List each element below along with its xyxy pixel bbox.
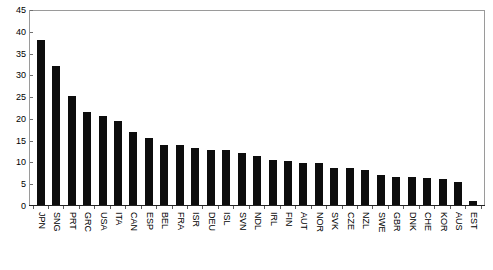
x-label-slot: AUT bbox=[296, 211, 311, 263]
x-axis-label: ESP bbox=[144, 212, 153, 230]
bar-slot bbox=[466, 11, 481, 205]
x-label-slot: CZE bbox=[342, 211, 357, 263]
x-label-slot: SNG bbox=[48, 211, 63, 263]
x-axis-label: GBR bbox=[392, 212, 401, 232]
x-tick-slot bbox=[172, 206, 187, 210]
bar bbox=[207, 150, 215, 205]
x-tick-slot bbox=[110, 206, 125, 210]
x-tick-mark bbox=[94, 206, 95, 209]
bar bbox=[299, 163, 307, 205]
x-label-slot: CHE bbox=[419, 211, 434, 263]
x-axis-label: AUS bbox=[453, 212, 462, 231]
bar bbox=[269, 160, 277, 205]
x-label-slot: DEU bbox=[203, 211, 218, 263]
x-tick-slot bbox=[311, 206, 326, 210]
x-tick-mark bbox=[342, 206, 343, 209]
bar-slot bbox=[450, 11, 465, 205]
bar-slot bbox=[203, 11, 218, 205]
x-axis-label: DEU bbox=[206, 212, 215, 231]
x-label-slot: SVN bbox=[234, 211, 249, 263]
x-tick-mark bbox=[202, 206, 203, 209]
x-axis-label: GRC bbox=[83, 212, 92, 232]
x-axis-label: ISR bbox=[191, 212, 200, 227]
bar-slot bbox=[249, 11, 264, 205]
bar bbox=[408, 177, 416, 205]
bar-slot bbox=[280, 11, 295, 205]
x-tick-mark bbox=[264, 206, 265, 209]
x-tick-slot bbox=[79, 206, 94, 210]
x-tick-mark bbox=[434, 206, 435, 209]
bar-slot bbox=[265, 11, 280, 205]
bar bbox=[454, 182, 462, 205]
x-label-slot: EST bbox=[466, 211, 481, 263]
bar bbox=[68, 96, 76, 206]
x-tick-mark bbox=[156, 206, 157, 209]
x-tick-mark bbox=[419, 206, 420, 209]
x-axis-label: CAN bbox=[129, 212, 138, 231]
bars-area bbox=[30, 11, 484, 205]
x-axis-label: FRA bbox=[175, 212, 184, 230]
y-tick-label: 20 bbox=[0, 114, 26, 123]
x-axis-label: SNG bbox=[52, 212, 61, 232]
bar bbox=[160, 145, 168, 205]
x-tick-slot bbox=[404, 206, 419, 210]
x-axis-label: SWE bbox=[376, 212, 385, 233]
x-label-slot: ISR bbox=[188, 211, 203, 263]
x-tick-slot bbox=[419, 206, 434, 210]
bar-chart: 051015202530354045 JPNSNGPRTGRCUSAITACAN… bbox=[0, 0, 493, 270]
x-tick-mark bbox=[48, 206, 49, 209]
x-axis-label: AUT bbox=[299, 212, 308, 230]
x-axis-label: CHE bbox=[423, 212, 432, 231]
y-tick-label: 30 bbox=[0, 71, 26, 80]
y-tick-label: 25 bbox=[0, 93, 26, 102]
x-tick-mark bbox=[311, 206, 312, 209]
x-label-slot: FRA bbox=[172, 211, 187, 263]
x-tick-slot bbox=[95, 206, 110, 210]
x-tick-slot bbox=[466, 206, 481, 210]
x-tick-mark bbox=[172, 206, 173, 209]
x-axis-label: PRT bbox=[67, 212, 76, 230]
x-tick-mark bbox=[450, 206, 451, 209]
x-label-slot: NZL bbox=[358, 211, 373, 263]
bar-slot bbox=[342, 11, 357, 205]
bar bbox=[222, 150, 230, 205]
bar bbox=[330, 168, 338, 206]
bar bbox=[129, 132, 137, 205]
y-tick-label: 10 bbox=[0, 158, 26, 167]
bar-slot bbox=[373, 11, 388, 205]
x-label-slot: DNK bbox=[404, 211, 419, 263]
bar bbox=[253, 156, 261, 205]
x-tick-mark bbox=[141, 206, 142, 209]
x-label-slot: ITA bbox=[110, 211, 125, 263]
x-axis-label: BEL bbox=[160, 212, 169, 229]
x-tick-mark bbox=[218, 206, 219, 209]
x-axis-category-labels: JPNSNGPRTGRCUSAITACANESPBELFRAISRDEUISLS… bbox=[30, 211, 484, 263]
x-tick-slot bbox=[64, 206, 79, 210]
x-tick-slot bbox=[342, 206, 357, 210]
x-axis-label: ITA bbox=[113, 212, 122, 225]
bar-slot bbox=[388, 11, 403, 205]
x-axis-label: FIN bbox=[283, 212, 292, 227]
x-tick-slot bbox=[265, 206, 280, 210]
x-tick-slot bbox=[218, 206, 233, 210]
x-label-slot: BEL bbox=[157, 211, 172, 263]
y-tick-label: 15 bbox=[0, 136, 26, 145]
bar-slot bbox=[327, 11, 342, 205]
x-tick-slot bbox=[358, 206, 373, 210]
bar bbox=[284, 161, 292, 205]
x-axis-label: IRL bbox=[268, 212, 277, 226]
bar-slot bbox=[48, 11, 63, 205]
x-tick-slot bbox=[157, 206, 172, 210]
x-tick-mark bbox=[295, 206, 296, 209]
x-axis-label: JPN bbox=[36, 212, 45, 229]
x-tick-mark bbox=[326, 206, 327, 209]
bar bbox=[346, 168, 354, 205]
y-tick-label: 40 bbox=[0, 27, 26, 36]
x-tick-slot bbox=[450, 206, 465, 210]
bar-slot bbox=[141, 11, 156, 205]
x-tick-mark bbox=[110, 206, 111, 209]
bar-slot bbox=[33, 11, 48, 205]
x-tick-slot bbox=[373, 206, 388, 210]
x-tick-mark bbox=[125, 206, 126, 209]
bar-slot bbox=[296, 11, 311, 205]
